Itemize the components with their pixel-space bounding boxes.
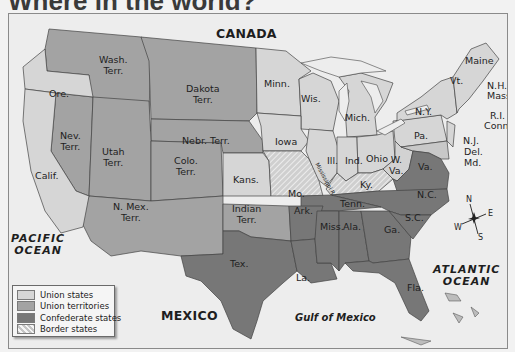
label-wis: Wis. xyxy=(301,93,321,104)
label-ill: Ill. xyxy=(327,155,338,166)
label-atlantic-ocean: ATLANTICOCEAN xyxy=(433,264,500,288)
label-mich: Mich. xyxy=(345,112,370,123)
compass-rose: N E W S xyxy=(454,196,494,242)
label-minn: Minn. xyxy=(264,78,290,89)
label-mass: Mass. xyxy=(487,90,508,101)
swatch-border-states xyxy=(17,324,35,334)
label-nebr-terr: Nebr. Terr. xyxy=(182,135,230,146)
label-ind: Ind. xyxy=(345,155,363,166)
label-pa: Pa. xyxy=(414,130,428,141)
label-va: Va. xyxy=(418,161,433,172)
label-iowa: Iowa xyxy=(275,136,297,147)
label-kans: Kans. xyxy=(233,174,259,185)
label-ohio: Ohio xyxy=(366,153,388,164)
dakota-terr xyxy=(141,37,257,121)
legend-item-confederate-states: Confederate states xyxy=(17,312,110,324)
label-md: Md. xyxy=(464,157,481,168)
swatch-confederate-states xyxy=(17,313,35,323)
nj xyxy=(447,121,455,147)
label-indian-terr: IndianTerr. xyxy=(232,203,261,225)
label-ore: Ore. xyxy=(49,88,69,99)
label-calif: Calif. xyxy=(35,170,58,181)
label-del: Del. xyxy=(464,146,483,157)
label-colo-terr: Colo.Terr. xyxy=(174,155,198,177)
label-w-va: W.Va. xyxy=(389,154,404,176)
compass-icon xyxy=(454,196,494,242)
legend-label: Union states xyxy=(40,290,93,300)
swatch-union-states xyxy=(17,290,35,300)
label-miss: Miss. xyxy=(320,221,344,232)
legend-label: Confederate states xyxy=(40,313,121,323)
label-fla: Fla. xyxy=(407,282,424,293)
label-mo: Mo. xyxy=(288,188,305,199)
label-pacific-ocean: PACIFICOCEAN xyxy=(11,233,65,257)
legend-label: Union territories xyxy=(40,301,109,311)
label-ky: Ky. xyxy=(360,179,373,190)
legend-item-border-states: Border states xyxy=(17,324,110,336)
label-wash-terr: Wash.Terr. xyxy=(99,54,128,76)
label-nev-terr: Nev.Terr. xyxy=(60,130,81,152)
label-utah-terr: UtahTerr. xyxy=(102,146,125,168)
label-ga: Ga. xyxy=(384,224,400,235)
label-conn: Conn. xyxy=(484,120,508,131)
swatch-union-territories xyxy=(17,301,35,311)
label-ark: Ark. xyxy=(294,205,313,216)
label-dakota-terr: DakotaTerr. xyxy=(186,83,220,105)
label-canada: CANADA xyxy=(216,28,277,39)
compass-w: W xyxy=(454,222,462,233)
legend-item-union-territories: Union territories xyxy=(17,301,110,313)
label-tenn: Tenn. xyxy=(340,198,365,209)
label-sc: S.C. xyxy=(405,212,424,223)
legend-item-union-states: Union states xyxy=(17,289,110,301)
label-maine: Maine xyxy=(465,55,494,66)
label-ala: Ala. xyxy=(343,221,361,232)
compass-e: E xyxy=(488,208,493,219)
compass-s: S xyxy=(478,232,483,243)
label-nc: N.C. xyxy=(417,189,437,200)
compass-n: N xyxy=(466,194,472,205)
label-ny: N.Y. xyxy=(415,106,432,117)
label-nj: N.J. xyxy=(463,135,479,146)
nmex-terr xyxy=(81,196,223,256)
label-gulf-of-mexico: Gulf of Mexico xyxy=(295,312,376,323)
miss xyxy=(315,211,339,271)
label-la: La. xyxy=(296,272,310,283)
label-n-mex-terr: N. Mex.Terr. xyxy=(113,201,149,223)
label-tex: Tex. xyxy=(230,258,249,269)
label-vt: Vt. xyxy=(450,75,463,86)
map-legend: Union states Union territories Confedera… xyxy=(12,285,115,337)
legend-label: Border states xyxy=(40,324,97,334)
label-mexico: MEXICO xyxy=(161,310,218,321)
